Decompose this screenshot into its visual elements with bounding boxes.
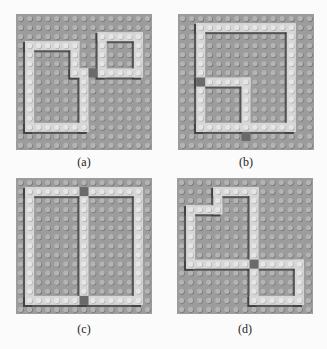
lego-photo-b (178, 14, 314, 150)
caption-a: (a) (16, 155, 152, 170)
lego-photo-a (16, 14, 152, 150)
panel-a (16, 14, 152, 150)
panel-c (16, 178, 152, 314)
panel-b (178, 14, 314, 150)
lego-photo-c (16, 178, 152, 314)
lego-photo-d (177, 178, 313, 314)
caption-c: (c) (16, 322, 152, 337)
panel-d (177, 178, 313, 314)
caption-d: (d) (177, 322, 313, 337)
caption-b: (b) (178, 155, 314, 170)
